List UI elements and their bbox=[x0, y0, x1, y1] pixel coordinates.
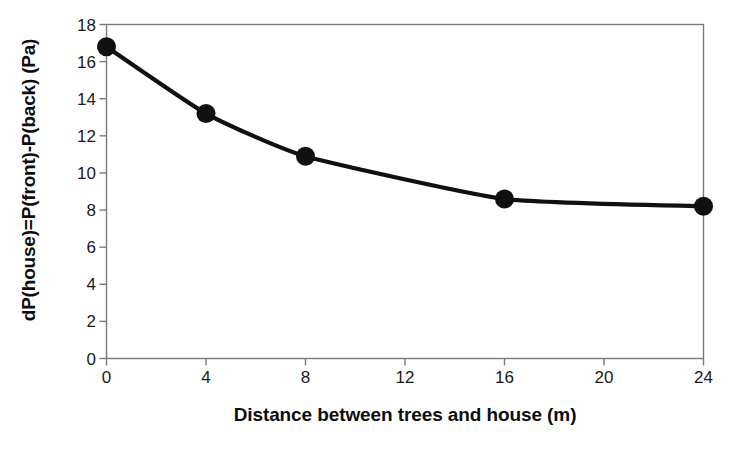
x-axis-ticks bbox=[107, 359, 704, 366]
x-axis-title: Distance between trees and house (m) bbox=[106, 404, 704, 426]
x-tick-label: 12 bbox=[385, 369, 425, 386]
x-axis-tick-labels: 04812162024 bbox=[0, 369, 749, 393]
x-tick-label: 24 bbox=[684, 369, 724, 386]
x-tick-label: 20 bbox=[584, 369, 624, 386]
data-point-marker: 16, 8.6 bbox=[495, 189, 514, 208]
plot-frame bbox=[107, 25, 704, 359]
data-point-marker: 24, 8.2 bbox=[694, 197, 713, 216]
y-axis-ticks bbox=[100, 25, 107, 359]
data-line-series bbox=[107, 47, 704, 207]
data-point-marker: 8, 10.9 bbox=[296, 147, 315, 166]
x-tick-label: 16 bbox=[485, 369, 525, 386]
x-tick-label: 8 bbox=[286, 369, 326, 386]
chart-figure: dP(house)=P(front)-P(back) (Pa) 02468101… bbox=[0, 0, 749, 449]
x-tick-label: 0 bbox=[87, 369, 127, 386]
data-point-markers: 0, 16.84, 13.28, 10.916, 8.624, 8.2 bbox=[97, 37, 713, 216]
data-point-marker: 4, 13.2 bbox=[197, 104, 216, 123]
x-tick-label: 4 bbox=[186, 369, 226, 386]
data-point-marker: 0, 16.8 bbox=[97, 37, 116, 56]
